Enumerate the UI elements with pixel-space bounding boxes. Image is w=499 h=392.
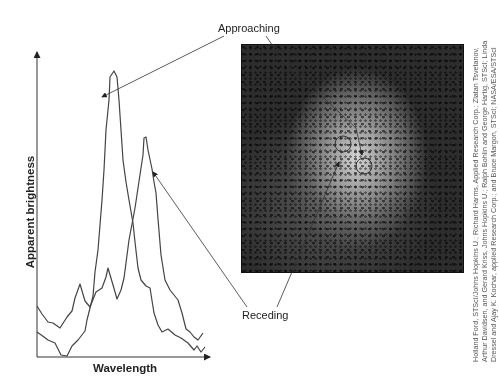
y-axis-label: Apparent brightness <box>24 156 36 268</box>
receding-label: Receding <box>242 309 288 321</box>
approaching-region-circle <box>356 158 372 174</box>
approaching-label: Approaching <box>218 22 280 34</box>
x-axis-label: Wavelength <box>93 362 157 374</box>
image-credit: Holland Ford, STScI/Johns Hopkins U.; Ri… <box>471 32 498 362</box>
doppler-figure: Approaching Receding Apparent brightness… <box>0 0 499 392</box>
receding-arrow-to-peak <box>153 172 247 307</box>
receding-arrow-to-image <box>277 162 339 307</box>
annotation-layer <box>0 0 499 392</box>
approaching-arrow-to-peak <box>102 36 224 97</box>
receding-region-circle <box>335 136 351 152</box>
